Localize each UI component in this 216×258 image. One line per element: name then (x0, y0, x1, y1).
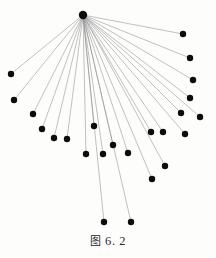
graph-edge (83, 15, 103, 154)
graph-edge (33, 15, 83, 114)
graph-node (197, 114, 203, 120)
graph-node (187, 95, 193, 101)
graph-node (190, 77, 196, 83)
graph-node (180, 31, 186, 37)
graph-node (11, 97, 17, 103)
figure-caption-label: 图 (90, 235, 102, 248)
graph-node (182, 131, 188, 137)
graph-edge (14, 15, 83, 100)
figure-container: 图 6. 2 (0, 0, 216, 258)
graph-node (125, 150, 131, 156)
graph-node (30, 111, 36, 117)
graph-hub-node (79, 11, 87, 19)
graph-node (64, 136, 70, 142)
graph-node (148, 129, 154, 135)
graph-nodes-layer (8, 11, 203, 225)
graph-edge (83, 15, 165, 166)
graph-edge (83, 15, 183, 34)
star-graph-diagram (0, 0, 216, 258)
graph-node (39, 126, 45, 132)
graph-edges-layer (11, 15, 200, 222)
graph-edge (83, 15, 200, 117)
graph-node (128, 219, 134, 225)
graph-edge (83, 15, 163, 132)
graph-node (187, 55, 193, 61)
figure-caption-number: 6. 2 (105, 234, 126, 248)
graph-edge (83, 15, 185, 134)
graph-node (100, 151, 106, 157)
graph-node (8, 71, 14, 77)
graph-node (83, 151, 89, 157)
graph-node (178, 110, 184, 116)
graph-edge (67, 15, 83, 139)
graph-node (110, 142, 116, 148)
figure-caption: 图 6. 2 (0, 232, 216, 249)
graph-edge (54, 15, 83, 138)
graph-edge (83, 15, 152, 179)
graph-node (160, 129, 166, 135)
graph-node (51, 135, 57, 141)
graph-node (149, 176, 155, 182)
graph-edge (83, 15, 190, 58)
graph-node (101, 219, 107, 225)
graph-node (162, 163, 168, 169)
graph-edge (83, 15, 86, 154)
graph-node (91, 123, 97, 129)
